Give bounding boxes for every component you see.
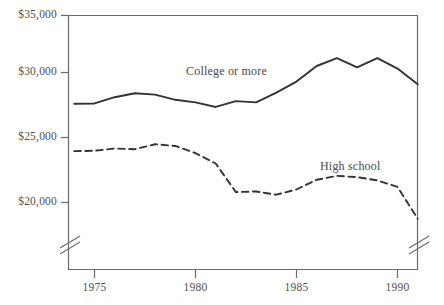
y-tick-label-20000: $20,000 — [0, 195, 57, 207]
series-label-high-school: High school — [320, 159, 381, 174]
chart-figure: $35,000 $30,000 $25,000 $20,000 1975 198… — [0, 0, 444, 305]
x-tick-label-1985: 1985 — [271, 281, 322, 293]
y-axis-break-icon — [60, 236, 80, 254]
series-line-high-school — [74, 144, 417, 218]
x-tick-label-1990: 1990 — [372, 281, 423, 293]
x-ticks — [95, 270, 398, 278]
chart-canvas — [0, 0, 444, 305]
right-axis-break-icon — [409, 236, 429, 254]
plot-frame — [69, 15, 419, 270]
y-ticks — [61, 16, 69, 203]
series-label-college-or-more: College or more — [186, 64, 267, 79]
x-tick-label-1980: 1980 — [170, 281, 221, 293]
y-tick-label-30000: $30,000 — [0, 65, 57, 77]
y-tick-label-25000: $25,000 — [0, 130, 57, 142]
x-tick-label-1975: 1975 — [69, 281, 120, 293]
y-tick-label-35000: $35,000 — [0, 8, 57, 20]
